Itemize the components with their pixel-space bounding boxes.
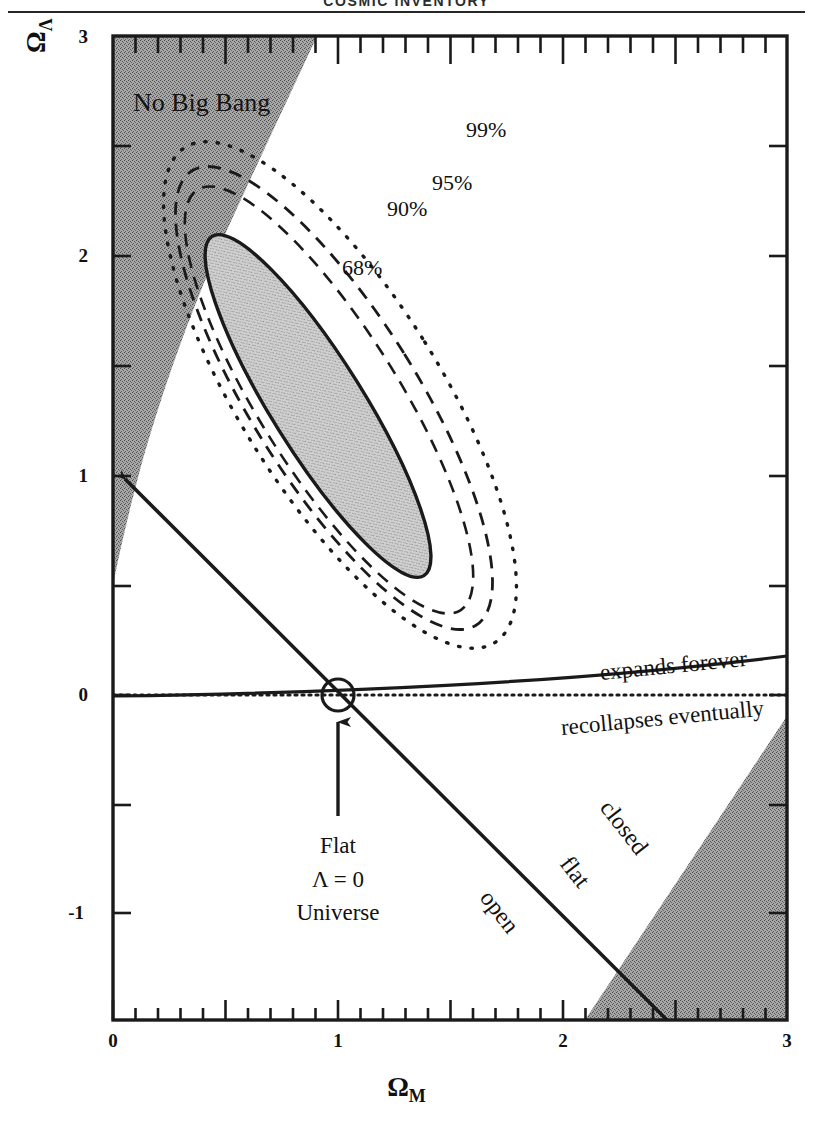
y-axis-title: ΩΛ (8, 0, 68, 60)
annotation-lambda-equals-zero: Λ = 0 (283, 867, 393, 893)
x-tick-label-0: 0 (93, 1030, 133, 1052)
y-axis-title-subscript: Λ (36, 18, 56, 31)
annotation-no-big-bang: No Big Bang (133, 88, 270, 118)
y-tick-label-neg1: -1 (44, 902, 84, 924)
y-tick-label-0: 0 (48, 684, 88, 706)
annotation-flat: Flat (283, 833, 393, 859)
cosmology-omega-plot: 3 2 1 0 -1 0 1 2 3 ΩΛ ΩM No Big Bang 99%… (0, 0, 813, 1121)
contour-label-90: 90% (387, 196, 427, 222)
x-tick-label-2: 2 (543, 1030, 583, 1052)
plot-canvas (0, 0, 813, 1121)
x-tick-label-1: 1 (318, 1030, 358, 1052)
x-axis-title-subscript: M (409, 1086, 426, 1106)
contour-label-99: 99% (466, 117, 506, 143)
y-axis-title-base: Ω (21, 31, 51, 53)
y-tick-label-2: 2 (48, 245, 88, 267)
x-axis-title: ΩM (0, 1072, 813, 1107)
contour-label-95: 95% (432, 170, 472, 196)
y-tick-label-1: 1 (48, 465, 88, 487)
x-axis-title-base: Ω (387, 1072, 409, 1102)
x-tick-label-3: 3 (767, 1030, 807, 1052)
contour-label-68: 68% (342, 255, 382, 281)
annotation-universe: Universe (283, 900, 393, 926)
